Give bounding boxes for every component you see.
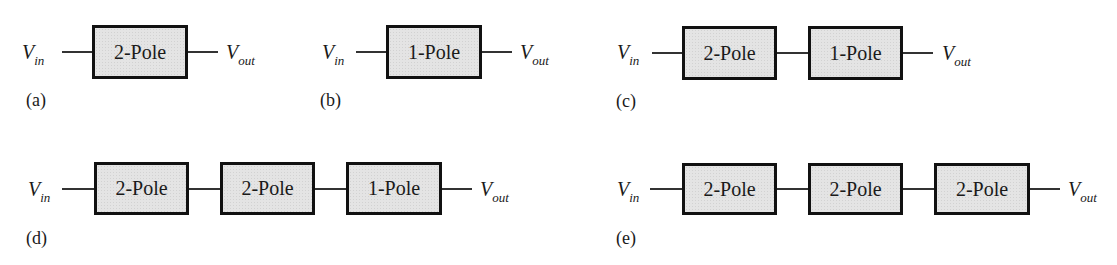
vin-label: Vin bbox=[22, 42, 44, 71]
vout-label: Vout bbox=[1068, 179, 1097, 208]
block-1-pole: 1-Pole bbox=[386, 25, 482, 79]
input-wire bbox=[62, 51, 92, 53]
input-wire bbox=[62, 188, 94, 190]
panel-caption: (b) bbox=[320, 91, 341, 109]
output-wire bbox=[442, 188, 472, 190]
output-wire bbox=[1030, 188, 1060, 190]
connector-wire bbox=[903, 188, 934, 190]
panel-caption: (e) bbox=[616, 229, 636, 247]
connector-wire bbox=[777, 52, 808, 54]
panel-caption: (c) bbox=[616, 92, 636, 110]
output-wire bbox=[482, 51, 512, 53]
input-wire bbox=[652, 52, 682, 54]
panel-caption: (d) bbox=[26, 229, 47, 247]
vin-label: Vin bbox=[617, 179, 639, 208]
panel-caption: (a) bbox=[26, 91, 46, 109]
block-2-pole: 2-Pole bbox=[220, 162, 315, 215]
block-2-pole: 2-Pole bbox=[682, 26, 777, 80]
vin-label: Vin bbox=[322, 42, 344, 71]
block-2-pole: 2-Pole bbox=[934, 163, 1030, 215]
block-1-pole: 1-Pole bbox=[346, 162, 442, 215]
connector-wire bbox=[777, 188, 808, 190]
block-1-pole: 1-Pole bbox=[808, 26, 903, 80]
input-wire bbox=[356, 51, 386, 53]
block-2-pole: 2-Pole bbox=[682, 163, 777, 215]
connector-wire bbox=[315, 188, 346, 190]
vout-label: Vout bbox=[520, 42, 549, 71]
vin-label: Vin bbox=[28, 179, 50, 208]
block-2-pole: 2-Pole bbox=[808, 163, 903, 215]
block-2-pole: 2-Pole bbox=[92, 25, 188, 79]
output-wire bbox=[188, 51, 218, 53]
connector-wire bbox=[189, 188, 220, 190]
vout-label: Vout bbox=[480, 179, 509, 208]
vout-label: Vout bbox=[226, 42, 255, 71]
vout-label: Vout bbox=[942, 43, 971, 72]
vin-label: Vin bbox=[617, 42, 639, 71]
block-2-pole: 2-Pole bbox=[94, 162, 189, 215]
output-wire bbox=[903, 52, 933, 54]
input-wire bbox=[650, 188, 682, 190]
